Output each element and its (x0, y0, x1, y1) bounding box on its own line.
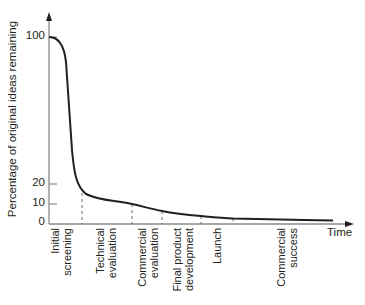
category-line-2: success (288, 228, 300, 303)
category-line-2: evaluation (107, 228, 119, 303)
stage-boundaries (82, 193, 233, 224)
y-axis-arrow-icon (46, 12, 52, 21)
category-final-product-development: Final product development (172, 228, 202, 303)
category-commercial-evaluation: Commercial evaluation (137, 228, 167, 303)
category-line-2: screening (62, 228, 74, 303)
category-launch: Launch (212, 228, 242, 303)
category-line-1: Launch (212, 228, 224, 303)
category-line-1: Initial (50, 228, 62, 303)
y-tick-label-0: 0 (15, 215, 45, 227)
category-initial-screening: Initial screening (50, 228, 80, 303)
category-line-1: Commercial (276, 228, 288, 303)
y-tick-label-20: 20 (15, 176, 45, 188)
category-commercial-success: Commercial success (276, 228, 306, 303)
x-axis-label: Time (327, 226, 352, 238)
category-line-1: Commercial (137, 228, 149, 303)
y-axis-label: Percentage of original ideas remaining (6, 19, 20, 219)
category-line-2: evaluation (149, 228, 161, 303)
category-technical-evaluation: Technical evaluation (95, 228, 125, 303)
category-line-1: Technical (95, 228, 107, 303)
y-tick-label-10: 10 (15, 196, 45, 208)
category-line-1: Final product (172, 228, 184, 303)
ideas-remaining-curve (49, 37, 333, 221)
category-line-2: development (184, 228, 196, 303)
y-tick-label-100: 100 (15, 29, 45, 41)
chart: Percentage of original ideas remaining 1… (0, 0, 365, 305)
